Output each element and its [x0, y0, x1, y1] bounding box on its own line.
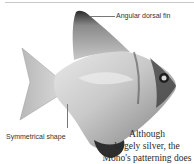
caption-line: Mono's patterning does [102, 152, 192, 164]
dorsal-fin-leader [90, 16, 115, 17]
shape-leader [67, 104, 68, 128]
caption-text: Although largely silver, the Mono's patt… [102, 128, 192, 164]
caption-line: largely silver, the [102, 140, 192, 152]
caption-line: Although [102, 128, 192, 140]
shape-label: Symmetrical shape [6, 133, 66, 141]
dorsal-fin-label: Angular dorsal fin [116, 12, 170, 20]
